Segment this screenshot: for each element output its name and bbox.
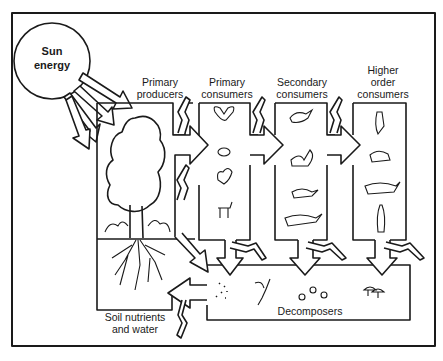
shrubs [105,220,170,232]
label-primary-consumers: Primary consumers [194,76,260,100]
wolf-icon [365,182,400,194]
fox-icon [285,214,322,226]
label-line: consumers [194,88,260,100]
label-line: and water [98,323,172,335]
worms-icon [255,279,270,305]
owl-icon [376,112,384,134]
sun-label: Sun energy [22,44,82,72]
heat-arrow-producers-mid [177,165,189,200]
bird-icon [290,110,312,123]
tree-roots [112,240,165,290]
mouse-icon [218,148,230,156]
label-line: producers [125,88,195,100]
beetle-icon-1 [310,287,316,293]
label-line: Primary [125,76,195,88]
label-line: consumers [350,88,416,100]
sc-box-right [313,165,327,240]
hc-box [353,103,406,240]
label-line: consumers [268,88,336,100]
arrow-decomposers-to-soil [168,278,207,308]
beetle-icon-3 [299,294,305,300]
hc-box-left [353,103,375,240]
butterfly-icon [214,107,234,121]
human-icon [377,205,384,232]
label-line: Primary [194,76,260,88]
label-soil: Soil nutrients and water [98,311,172,335]
label-primary-producers: Primary producers [125,76,195,100]
label-higher-consumers: Higher order consumers [350,64,416,100]
sun-label-line2: energy [22,58,82,72]
label-line: order [350,76,416,88]
tree-canopy [106,117,164,212]
sc-box-top [275,103,335,135]
squirrel-icon [218,169,232,185]
label-secondary-consumers: Secondary consumers [268,76,336,100]
beetle-icon-2 [321,292,327,298]
mushroom-icon [364,287,384,298]
label-decomposers: Decomposers [270,305,350,317]
pc-box-right [236,165,250,240]
sun-label-line1: Sun [22,44,82,58]
heat-arrow-producers [178,97,190,133]
bobcat-icon [370,151,390,162]
label-line: Soil nutrients [98,311,172,323]
label-line: Secondary [268,76,336,88]
sc-box-left [275,103,298,240]
raccoon-icon [292,189,318,198]
skunk-icon [291,150,313,166]
deer-icon [218,202,232,218]
bacteria-icon [216,283,227,298]
label-line: Higher [350,64,416,76]
